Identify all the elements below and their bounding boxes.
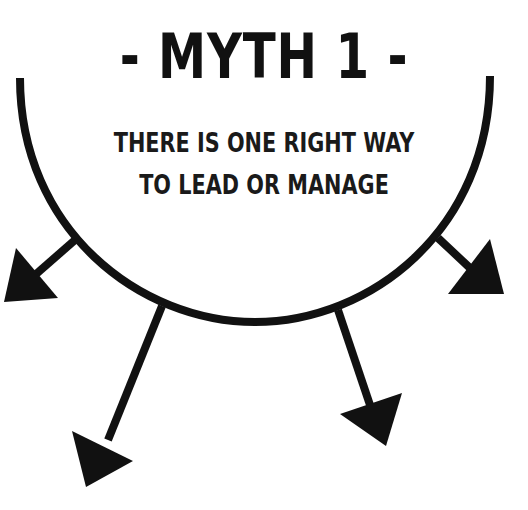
arrowhead-2-icon [72,431,133,487]
arrow-shaft-4 [438,238,470,268]
arrow-shaft-1 [35,240,75,275]
myth-title: - MYTH 1 - [58,22,470,92]
arrow-shaft-2 [108,306,162,440]
arrowhead-4-icon [448,239,504,294]
arrow-shaft-3 [338,310,370,405]
arrowhead-1-icon [4,248,58,302]
myth-statement-line-1: THERE IS ONE RIGHT WAY [53,128,475,158]
myth-statement-line-2: TO LEAD OR MANAGE [53,170,475,200]
